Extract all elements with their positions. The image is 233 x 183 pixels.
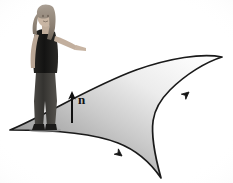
oriented-surface-figure: n [0, 0, 233, 183]
figure-canvas: n [0, 0, 233, 183]
scan-vignette [0, 0, 233, 183]
